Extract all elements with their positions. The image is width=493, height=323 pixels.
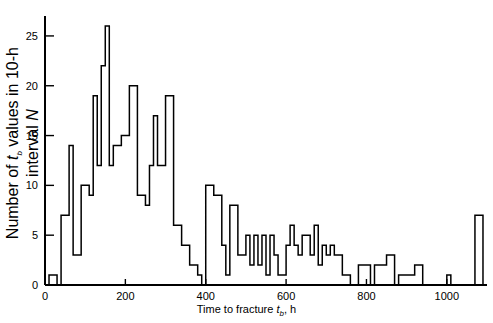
x-tick-label: 200 bbox=[116, 290, 134, 302]
histogram-figure: 020040060080010000510152025 Time to frac… bbox=[0, 0, 493, 323]
x-tick-label: 0 bbox=[42, 290, 48, 302]
histogram-step-outline bbox=[45, 26, 487, 285]
y-axis-title-var: t bbox=[4, 156, 21, 160]
x-axis-title-suffix: , h bbox=[284, 303, 296, 315]
x-tick-label: 400 bbox=[197, 290, 215, 302]
y-axis-title-prefix: Number of bbox=[4, 160, 21, 239]
x-axis-title: Time to fracture tb, h bbox=[0, 303, 493, 318]
x-tick-label: 1000 bbox=[435, 290, 459, 302]
y-axis-title-sub: b bbox=[15, 151, 24, 155]
x-axis-title-prefix: Time to fracture bbox=[197, 303, 277, 315]
y-tick-label: 0 bbox=[32, 279, 38, 291]
y-axis-title: Number of tb values in 10-h interval N bbox=[4, 28, 42, 258]
x-tick-label: 800 bbox=[357, 290, 375, 302]
y-axis-title-symbol: N bbox=[24, 109, 41, 121]
x-tick-label: 600 bbox=[277, 290, 295, 302]
histogram-plot: 020040060080010000510152025 bbox=[0, 0, 493, 323]
